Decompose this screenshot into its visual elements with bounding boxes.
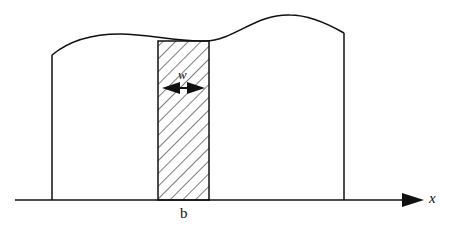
position-label: b	[180, 206, 188, 221]
x-axis-label: x	[429, 191, 436, 206]
diagram-svg	[0, 0, 450, 225]
diagram-canvas: w b x	[0, 0, 450, 225]
x-axis-arrowhead-icon	[402, 193, 424, 207]
width-label: w	[178, 68, 187, 81]
hatched-strip	[158, 41, 209, 200]
